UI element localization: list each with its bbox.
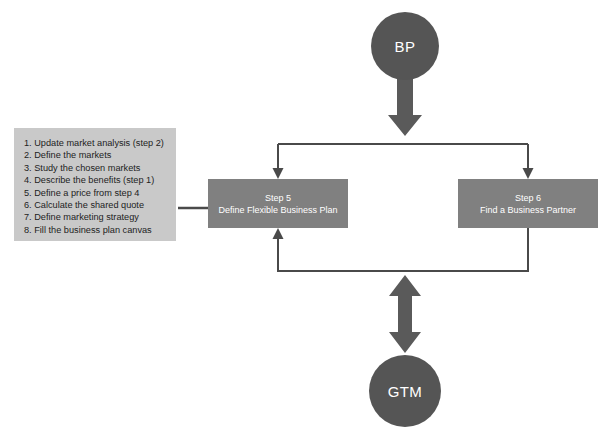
connector-step-6-to-step-5-feedback: [273, 228, 529, 271]
node-step-6-box[interactable]: [458, 179, 598, 228]
checklist-items: 1. Update market analysis (step 2) 2. De…: [24, 137, 168, 236]
connector-split-to-step-6: [523, 144, 534, 179]
checklist-item: 4. Describe the benefits (step 1): [24, 174, 168, 186]
node-bp-circle[interactable]: [371, 12, 439, 80]
checklist-item: 2. Define the markets: [24, 149, 168, 161]
checklist-item: 8. Fill the business plan canvas: [24, 224, 168, 236]
connector-gtm-double-arrow: [389, 275, 421, 353]
checklist-item: 7. Define marketing strategy: [24, 211, 168, 223]
connector-bp-to-split-arrow: [388, 79, 422, 136]
connector-split-to-step-5: [273, 144, 284, 179]
checklist-panel: 1. Update market analysis (step 2) 2. De…: [14, 128, 176, 241]
checklist-item: 3. Study the chosen markets: [24, 162, 168, 174]
diagram-canvas: BP GTM Step 5 Define Flexible Business P…: [0, 0, 613, 444]
node-gtm-circle[interactable]: [369, 355, 441, 427]
node-step-5-box[interactable]: [208, 179, 348, 228]
checklist-item: 1. Update market analysis (step 2): [24, 137, 168, 149]
checklist-item: 5. Define a price from step 4: [24, 187, 168, 199]
checklist-item: 6. Calculate the shared quote: [24, 199, 168, 211]
